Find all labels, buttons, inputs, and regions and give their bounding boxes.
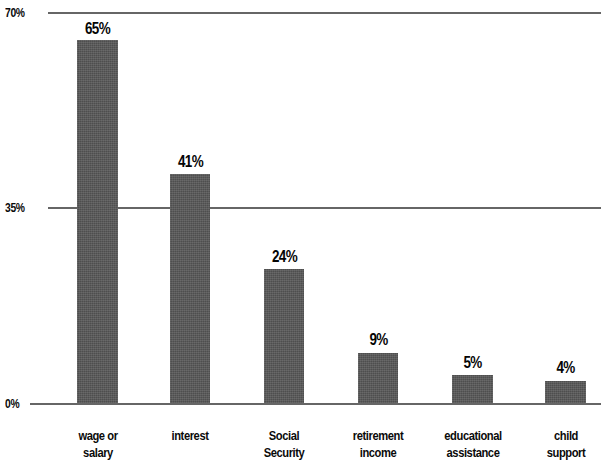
x-axis-label-line-1: Social [244,427,323,444]
bar-value-label-social-security: 24% [259,249,310,265]
bar-chart: 70% 35% 0% 65% 41% 24% 9% 5% 4% wage or … [0,0,601,472]
x-axis-label-social-security: Social Security [238,427,330,461]
x-axis-label-interest: interest [144,427,236,444]
x-axis-label-line-1: interest [150,427,229,444]
bar-social-security [264,269,304,403]
x-axis-baseline [30,403,601,405]
y-axis-tick-label-70: 70% [5,7,25,19]
gridline-70 [48,12,601,14]
bar-wage-or-salary [77,40,118,403]
x-axis-label-line-2: support [526,444,601,461]
bar-value-label-wage-or-salary: 65% [72,21,123,37]
x-axis-label-retirement-income: retirement income [332,427,424,461]
gridline-35 [48,207,601,209]
x-axis-label-line-1: educational [431,427,515,444]
x-axis-label-line-2: income [338,444,417,461]
x-axis-label-line-1: wage or [58,427,137,444]
bar-child-support [545,381,586,403]
bar-value-label-interest: 41% [165,154,216,170]
bar-value-label-retirement-income: 9% [353,332,404,348]
x-axis-label-line-2: assistance [431,444,515,461]
x-axis-label-line-1: retirement [338,427,417,444]
y-axis-tick-label-35: 35% [5,202,25,214]
y-axis-tick-label-0: 0% [5,398,19,410]
x-axis-label-line-2: Security [244,444,323,461]
x-axis-label-wage-or-salary: wage or salary [52,427,144,461]
x-axis-label-child-support: child support [520,427,601,461]
bar-value-label-child-support: 4% [540,360,591,376]
bar-retirement-income [358,353,398,403]
bar-interest [170,174,210,403]
x-axis-label-line-2: salary [58,444,137,461]
x-axis-label-educational-assistance: educational assistance [424,427,522,461]
x-axis-label-line-1: child [526,427,601,444]
bar-educational-assistance [452,375,493,403]
bar-value-label-educational-assistance: 5% [447,355,498,371]
